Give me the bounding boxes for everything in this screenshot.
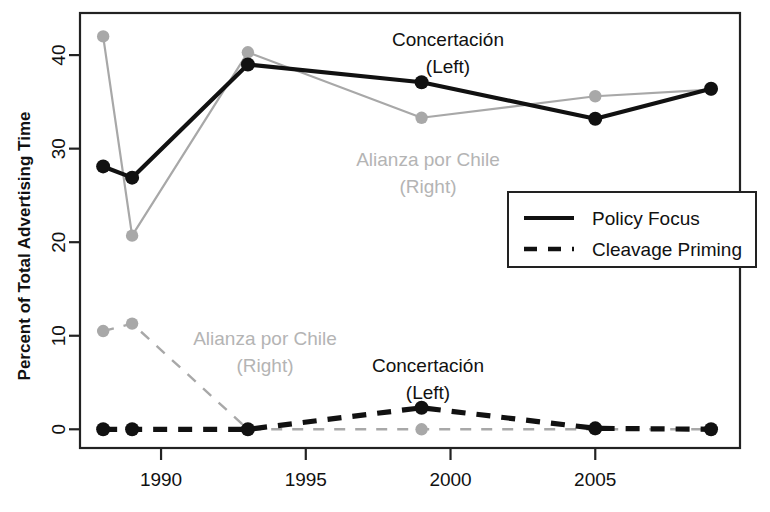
data-point: [588, 112, 602, 126]
y-tick-label: 0: [48, 424, 69, 435]
annotation-line-1: Concertación: [372, 355, 484, 376]
y-axis-title: Percent of Total Advertising Time: [15, 112, 34, 381]
data-point: [125, 422, 139, 436]
data-point: [242, 46, 254, 58]
data-point: [704, 422, 718, 436]
legend-label: Cleavage Priming: [592, 239, 742, 260]
y-tick-label: 30: [48, 138, 69, 159]
data-point: [241, 422, 255, 436]
y-tick-label: 10: [48, 325, 69, 346]
annotation-line-1: Concertación: [392, 29, 504, 50]
x-tick-label: 2000: [429, 469, 471, 490]
data-point: [704, 82, 718, 96]
chart-legend: Policy FocusCleavage Priming: [508, 192, 756, 267]
annotation-line-2: (Left): [426, 56, 470, 77]
data-point: [589, 90, 601, 102]
data-point: [415, 423, 427, 435]
data-point: [126, 229, 138, 241]
x-tick-label: 1995: [285, 469, 327, 490]
data-point: [415, 112, 427, 124]
data-point: [241, 57, 255, 71]
data-point: [96, 422, 110, 436]
data-point: [126, 317, 138, 329]
data-point: [97, 30, 109, 42]
annotation-line-2: (Right): [399, 176, 456, 197]
x-tick-label: 1990: [140, 469, 182, 490]
annotation-line-2: (Right): [236, 355, 293, 376]
y-tick-label: 20: [48, 232, 69, 253]
legend-label: Policy Focus: [592, 208, 700, 229]
data-point: [96, 159, 110, 173]
annotation-line-2: (Left): [406, 382, 450, 403]
x-tick-label: 2005: [574, 469, 616, 490]
data-point: [125, 171, 139, 185]
annotation-line-1: Alianza por Chile: [193, 328, 337, 349]
advertising-time-line-chart: Percent of Total Advertising Time 010203…: [0, 0, 770, 512]
data-point: [415, 75, 429, 89]
data-point: [97, 325, 109, 337]
y-tick-label: 40: [48, 45, 69, 66]
annotation-line-1: Alianza por Chile: [356, 149, 500, 170]
data-point: [588, 421, 602, 435]
